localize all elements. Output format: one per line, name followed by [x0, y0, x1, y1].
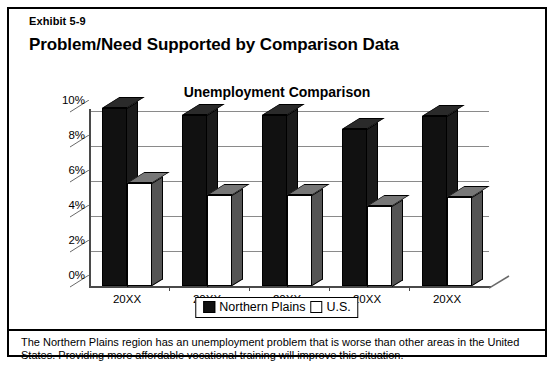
bar-us [207, 195, 232, 286]
bar-northern-plains [182, 115, 207, 287]
chart-title: Unemployment Comparison [27, 84, 527, 100]
bar-front-face [422, 116, 447, 286]
bar-front-face [367, 206, 392, 287]
x-axis-tick-mark [409, 286, 410, 291]
bar-us [127, 183, 152, 286]
legend-label-us: U.S. [326, 300, 350, 314]
y-axis-tick-label: 0% [45, 269, 85, 281]
y-axis-tick-label: 4% [45, 199, 85, 211]
x-axis-tick-mark [169, 286, 170, 291]
exhibit-label: Exhibit 5-9 [29, 15, 86, 27]
bar-front-face [342, 129, 367, 287]
bar-northern-plains [102, 108, 127, 287]
legend-label-northern-plains: Northern Plains [219, 300, 305, 314]
y-axis-tick-label: 2% [45, 234, 85, 246]
x-axis-tick-label: 20XX [407, 293, 487, 305]
y-axis-tick-label: 8% [45, 129, 85, 141]
legend-swatch-icon-us [310, 301, 322, 313]
bar-side-face [392, 199, 403, 286]
legend-item-us: U.S. [310, 300, 350, 314]
bar-us [367, 206, 392, 287]
bar-front-face [262, 115, 287, 287]
bar-front-face [127, 183, 152, 286]
footer-note: The Northern Plains region has an unempl… [21, 336, 537, 362]
bar-northern-plains [422, 116, 447, 286]
bar-top-face [262, 104, 305, 115]
legend-swatch-icon-northern-plains [203, 301, 215, 313]
y-axis [89, 109, 91, 288]
x-axis-tick-mark [249, 286, 250, 291]
bar-side-face [232, 188, 243, 286]
plot-area: 10%8%6%4%2%0% 20XX20XX20XX20XX20XX [89, 111, 489, 286]
page-title: Problem/Need Supported by Comparison Dat… [29, 35, 399, 55]
chart-legend: Northern Plains U.S. [195, 297, 358, 318]
exhibit-card: Exhibit 5-9 Problem/Need Supported by Co… [7, 7, 547, 357]
bar-front-face [102, 108, 127, 287]
unemployment-comparison-chart: Unemployment Comparison 10%8%6%4%2%0% 20… [27, 84, 527, 324]
bar-us [447, 197, 472, 286]
bar-front-face [447, 197, 472, 286]
bar-top-face [182, 104, 225, 115]
bar-front-face [207, 195, 232, 286]
legend-item-northern-plains: Northern Plains [203, 300, 305, 314]
y-axis-tick-label: 6% [45, 164, 85, 176]
x-axis [89, 286, 491, 288]
bar-northern-plains [342, 129, 367, 287]
bar-top-face [342, 118, 385, 129]
bar-us [287, 195, 312, 286]
y-axis-tick-label: 10% [45, 94, 85, 106]
bar-northern-plains [262, 115, 287, 287]
bar-side-face [472, 190, 483, 286]
divider [9, 329, 545, 331]
plot-corner-depth-line [489, 275, 511, 293]
x-axis-tick-label: 20XX [87, 293, 167, 305]
bar-front-face [287, 195, 312, 286]
bar-front-face [182, 115, 207, 287]
bar-side-face [152, 176, 163, 286]
bar-side-face [312, 188, 323, 286]
x-axis-tick-mark [329, 286, 330, 291]
